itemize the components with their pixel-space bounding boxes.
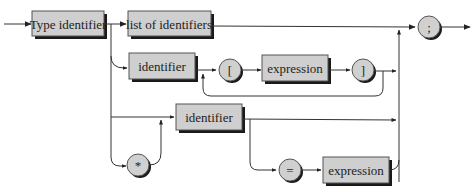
list-of-identifiers-label: list of identifiers bbox=[126, 17, 212, 32]
close-bracket-label: ] bbox=[361, 63, 365, 78]
identifier-init-box: identifier bbox=[176, 104, 245, 133]
equals-label: = bbox=[286, 163, 293, 178]
connector bbox=[242, 119, 396, 120]
expression-array-box: expression bbox=[262, 55, 331, 84]
identifier-array-box: identifier bbox=[129, 53, 198, 82]
connector bbox=[111, 56, 127, 68]
expression-init-box: expression bbox=[323, 157, 392, 186]
close-bracket-terminal: ] bbox=[352, 59, 376, 83]
pointer-star-label: * bbox=[135, 158, 142, 173]
identifier-array-label: identifier bbox=[138, 59, 186, 74]
syntax-diagram: Type identifier list of identifiers ; id… bbox=[0, 0, 476, 193]
identifier-init-label: identifier bbox=[185, 110, 233, 125]
type-identifier-label: Type identifier bbox=[30, 17, 107, 32]
list-of-identifiers-box: list of identifiers bbox=[126, 11, 214, 39]
pointer-star-terminal: * bbox=[127, 154, 151, 178]
connector bbox=[211, 26, 415, 27]
equals-terminal: = bbox=[279, 159, 303, 183]
expression-init-label: expression bbox=[328, 163, 384, 178]
connector bbox=[250, 119, 276, 170]
connector bbox=[149, 120, 161, 165]
expression-array-label: expression bbox=[267, 61, 323, 76]
connector bbox=[111, 117, 126, 166]
type-identifier-box: Type identifier bbox=[30, 11, 107, 39]
semicolon-terminal: ; bbox=[418, 16, 442, 40]
open-bracket-terminal: [ bbox=[219, 59, 243, 83]
semicolon-label: ; bbox=[427, 20, 431, 35]
open-bracket-label: [ bbox=[228, 63, 232, 78]
